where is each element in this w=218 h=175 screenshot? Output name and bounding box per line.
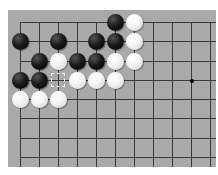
move-marker[interactable] bbox=[51, 73, 65, 87]
black-stone[interactable] bbox=[12, 33, 29, 50]
white-stone[interactable] bbox=[126, 53, 143, 70]
white-stone[interactable] bbox=[126, 14, 143, 31]
black-stone[interactable] bbox=[88, 33, 105, 50]
white-stone[interactable] bbox=[31, 91, 48, 108]
white-stone[interactable] bbox=[107, 53, 124, 70]
grid-line-horizontal bbox=[20, 138, 216, 139]
white-stone[interactable] bbox=[107, 72, 124, 89]
grid-line-horizontal bbox=[20, 118, 216, 119]
black-stone[interactable] bbox=[31, 72, 48, 89]
white-stone[interactable] bbox=[12, 91, 29, 108]
go-board[interactable] bbox=[8, 10, 216, 167]
white-stone[interactable] bbox=[50, 91, 67, 108]
white-stone[interactable] bbox=[126, 33, 143, 50]
black-stone[interactable] bbox=[69, 53, 86, 70]
white-stone[interactable] bbox=[88, 72, 105, 89]
grid-line-horizontal bbox=[20, 157, 216, 158]
grid-line-vertical bbox=[172, 22, 173, 167]
black-stone[interactable] bbox=[88, 53, 105, 70]
grid-line-vertical bbox=[77, 22, 78, 167]
black-stone[interactable] bbox=[31, 53, 48, 70]
black-stone[interactable] bbox=[107, 14, 124, 31]
white-stone[interactable] bbox=[50, 53, 67, 70]
black-stone[interactable] bbox=[107, 33, 124, 50]
black-stone[interactable] bbox=[50, 33, 67, 50]
grid-line-vertical bbox=[153, 22, 154, 167]
grid-line-vertical bbox=[210, 22, 211, 167]
grid-line-vertical bbox=[191, 22, 192, 167]
black-stone[interactable] bbox=[12, 72, 29, 89]
white-stone[interactable] bbox=[69, 72, 86, 89]
star-point bbox=[190, 79, 194, 83]
